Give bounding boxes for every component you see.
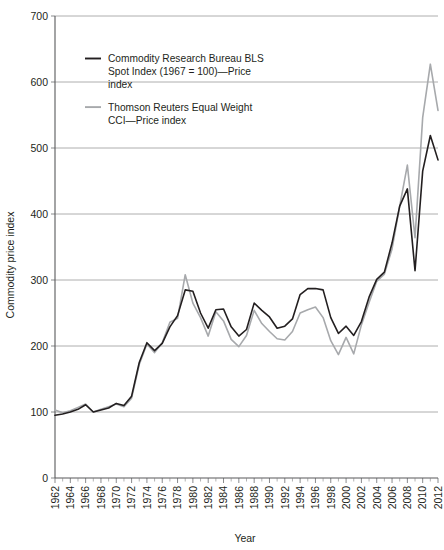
x-tick-label: 1980 — [187, 486, 199, 510]
x-axis-title: Year — [234, 532, 256, 544]
x-tick-label: 1988 — [248, 486, 260, 510]
x-tick-label: 1994 — [294, 486, 306, 510]
x-tick-label: 1982 — [202, 486, 214, 510]
y-tick-label: 100 — [30, 406, 48, 418]
x-tick-label: 2006 — [386, 486, 398, 510]
legend-label: Thomson Reuters Equal Weight — [108, 102, 252, 113]
y-tick-label: 300 — [30, 274, 48, 286]
y-axis: 0100200300400500600700 — [30, 10, 55, 484]
x-tick-label: 1972 — [125, 486, 137, 510]
x-tick-label: 2000 — [340, 486, 352, 510]
x-tick-label: 1974 — [141, 486, 153, 510]
y-tick-label: 600 — [30, 76, 48, 88]
legend-label: CCI—Price index — [108, 115, 186, 126]
x-tick-label: 2012 — [432, 486, 444, 510]
x-tick-label: 2002 — [355, 486, 367, 510]
commodity-price-index-chart: 0100200300400500600700 19621964196619681… — [0, 0, 444, 550]
chart-canvas: 0100200300400500600700 19621964196619681… — [0, 0, 444, 550]
series-line-0 — [55, 135, 438, 415]
legend-label: Spot Index (1967 = 100)—Price — [108, 66, 251, 77]
x-tick-label: 1962 — [49, 486, 61, 510]
x-tick-label: 1992 — [279, 486, 291, 510]
x-tick-label: 1990 — [263, 486, 275, 510]
x-tick-label: 1970 — [110, 486, 122, 510]
y-tick-label: 500 — [30, 142, 48, 154]
x-axis: 1962196419661968197019721974197619781980… — [49, 478, 444, 509]
y-axis-title: Commodity price index — [4, 211, 16, 319]
x-tick-label: 1966 — [79, 486, 91, 510]
legend-label: index — [108, 79, 132, 90]
y-tick-label: 200 — [30, 340, 48, 352]
x-tick-label: 1984 — [217, 486, 229, 510]
x-tick-label: 1996 — [309, 486, 321, 510]
x-tick-label: 1968 — [95, 486, 107, 510]
x-tick-label: 2008 — [401, 486, 413, 510]
x-tick-label: 1998 — [325, 486, 337, 510]
legend-label: Commodity Research Bureau BLS — [108, 53, 264, 64]
y-tick-label: 0 — [42, 472, 48, 484]
x-tick-label: 1986 — [233, 486, 245, 510]
y-tick-label: 400 — [30, 208, 48, 220]
x-tick-label: 1964 — [64, 486, 76, 510]
chart-legend: Commodity Research Bureau BLSSpot Index … — [85, 53, 264, 126]
y-tick-label: 700 — [30, 10, 48, 22]
x-tick-label: 2010 — [416, 486, 428, 510]
x-tick-label: 1976 — [156, 486, 168, 510]
x-tick-label: 1978 — [171, 486, 183, 510]
x-tick-label: 2004 — [371, 486, 383, 510]
